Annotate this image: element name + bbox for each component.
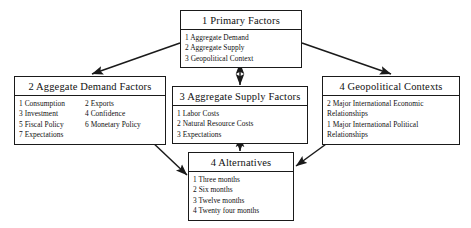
node-geopolitical-contexts-title: 4 Geopolitical Contexts (323, 77, 459, 96)
list-item: 3 Geopolitical Context (185, 54, 297, 65)
list-item: 2 Six months (193, 185, 289, 196)
list-item: 3 Expectations (177, 130, 303, 141)
node-geopolitical-contexts[interactable]: 4 Geopolitical Contexts 2 Major Internat… (322, 76, 460, 145)
node-geopolitical-contexts-body: 2 Major International Economic Relations… (323, 96, 459, 144)
node-aggregate-demand-factors[interactable]: 2 Aggegate Demand Factors 1 Consumption … (14, 76, 166, 145)
list-item: 3 Investment (19, 109, 85, 120)
connector-primary-to-geopolitical (302, 43, 391, 74)
list-item: 1 Aggregate Demand (185, 33, 297, 44)
node-aggregate-supply-factors-body: 1 Labor Costs 2 Natural Resource Costs 3… (173, 106, 307, 143)
node-primary-factors-title: 1 Primary Factors (181, 11, 301, 30)
list-item: 2 Natural Resource Costs (177, 119, 303, 130)
list-item: 4 Twenty four months (193, 206, 289, 217)
list-item: 1 Major International Political Relation… (327, 120, 455, 141)
list-item: 7 Expectations (19, 130, 85, 141)
node-alternatives[interactable]: 4 Alternatives 1 Three months 2 Six mont… (188, 152, 294, 221)
demand-items-column-left: 1 Consumption 3 Investment 5 Fiscal Poli… (19, 99, 85, 141)
list-item: 2 Aggregate Supply (185, 43, 297, 54)
node-aggregate-demand-factors-body: 1 Consumption 3 Investment 5 Fiscal Poli… (15, 96, 165, 144)
list-item: 2 Major International Economic Relations… (327, 99, 455, 120)
list-item: 1 Labor Costs (177, 109, 303, 120)
node-aggregate-demand-factors-title: 2 Aggegate Demand Factors (15, 77, 165, 96)
demand-items-column-right: 2 Exports 4 Confidence 6 Monetary Policy (85, 99, 161, 141)
list-item: 2 Exports (85, 99, 161, 110)
list-item: 3 Twelve months (193, 196, 289, 207)
list-item: 1 Three months (193, 175, 289, 186)
list-item: 1 Consumption (19, 99, 85, 110)
node-aggregate-supply-factors-title: 3 Aggregate Supply Factors (173, 87, 307, 106)
connector-demand-to-alternatives (150, 140, 187, 175)
node-aggregate-supply-factors[interactable]: 3 Aggregate Supply Factors 1 Labor Costs… (172, 86, 308, 144)
list-item: 4 Confidence (85, 109, 161, 120)
node-primary-factors[interactable]: 1 Primary Factors 1 Aggregate Demand 2 A… (180, 10, 302, 68)
node-alternatives-body: 1 Three months 2 Six months 3 Twelve mon… (189, 172, 293, 220)
node-primary-factors-body: 1 Aggregate Demand 2 Aggregate Supply 3 … (181, 30, 301, 67)
diagram-canvas: 1 Primary Factors 1 Aggregate Demand 2 A… (0, 0, 471, 228)
node-alternatives-title: 4 Alternatives (189, 153, 293, 172)
list-item: 6 Monetary Policy (85, 120, 161, 131)
connector-primary-to-demand (92, 43, 180, 74)
list-item: 5 Fiscal Policy (19, 120, 85, 131)
